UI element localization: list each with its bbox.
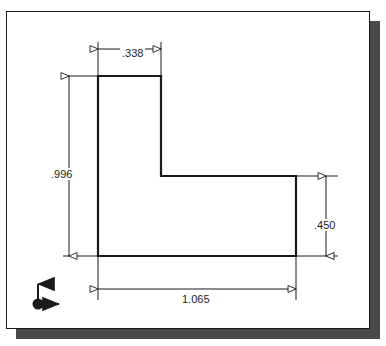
origin-point-dot	[33, 299, 44, 310]
part-outline-l-shape[interactable]	[98, 76, 296, 256]
dimension-label-right[interactable]: .450	[312, 219, 337, 231]
dimension-label-bottom[interactable]: 1.065	[180, 293, 212, 305]
dimension-label-top[interactable]: .338	[120, 47, 145, 59]
drawing-screenshot: .338 .996 .450 1.065	[0, 0, 386, 346]
drawing-frame[interactable]: .338 .996 .450 1.065	[6, 11, 370, 329]
dimension-label-left[interactable]: .996	[49, 168, 74, 180]
origin-coordinate-marker[interactable]	[33, 284, 60, 310]
